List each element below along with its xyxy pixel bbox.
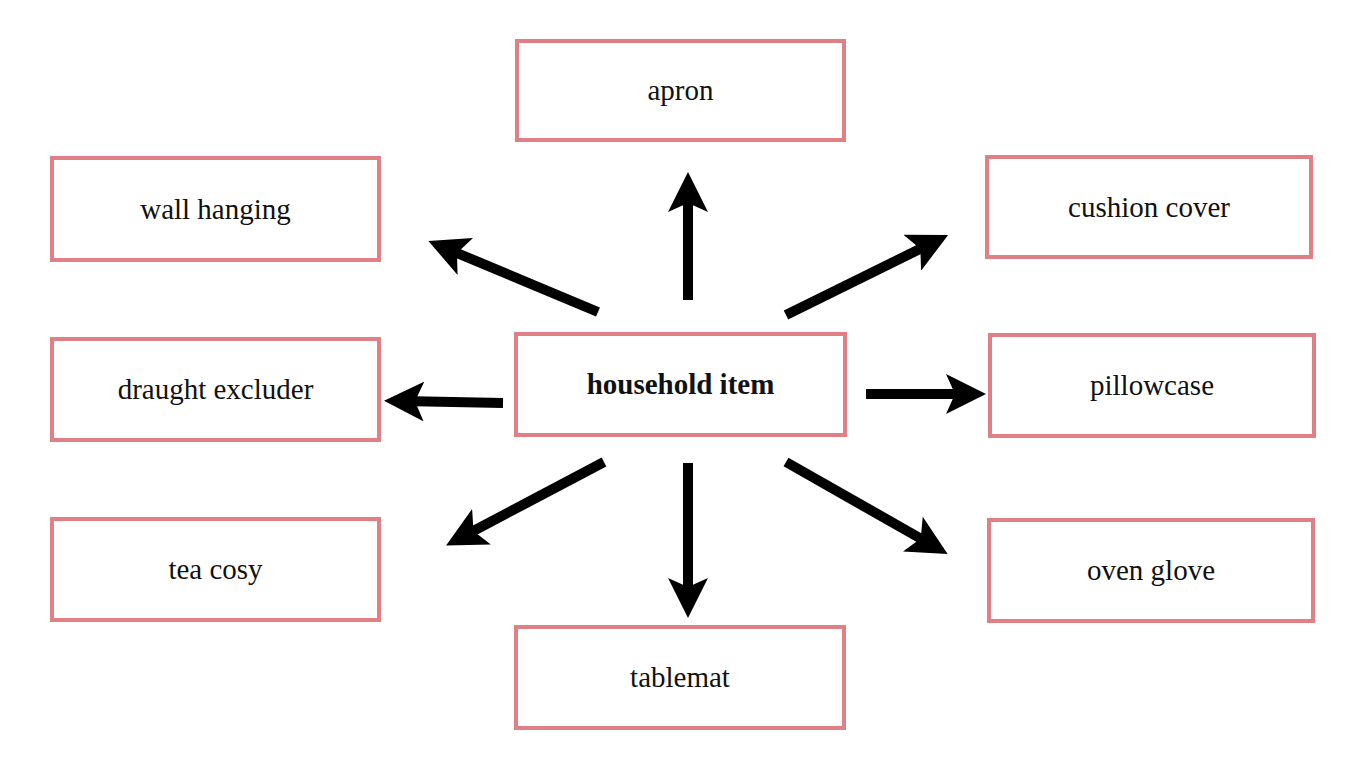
arrow-to-wall-hanging [445, 248, 598, 312]
arrow-to-cushion-cover [786, 243, 932, 315]
node-household-item: household item [514, 332, 847, 437]
node-draught-excluder: draught excluder [50, 337, 381, 442]
node-label: draught excluder [118, 373, 314, 406]
node-tablemat: tablemat [514, 625, 846, 730]
node-label: tablemat [630, 661, 730, 694]
node-label: oven glove [1087, 554, 1215, 587]
node-oven-glove: oven glove [987, 518, 1315, 623]
node-apron: apron [515, 39, 846, 142]
node-label: cushion cover [1068, 191, 1230, 224]
node-cushion-cover: cushion cover [985, 155, 1313, 259]
node-pillowcase: pillowcase [988, 333, 1316, 438]
arrow-to-draught-excluder [402, 401, 503, 403]
arrow-to-oven-glove [786, 462, 932, 545]
node-label: wall hanging [140, 193, 291, 226]
center-label: household item [587, 368, 775, 401]
node-label: tea cosy [168, 553, 262, 586]
arrow-to-tea-cosy [462, 462, 604, 537]
node-wall-hanging: wall hanging [50, 156, 381, 262]
node-label: pillowcase [1090, 369, 1214, 402]
node-label: apron [647, 74, 713, 107]
node-tea-cosy: tea cosy [50, 517, 381, 622]
